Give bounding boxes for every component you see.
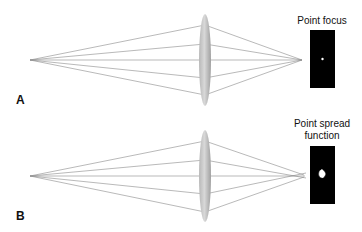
lens-a [199,14,211,106]
incoming-rays-b [30,141,205,212]
lens-b [199,130,211,222]
panel-a: Point focus A [16,14,347,107]
panel-a-letter: A [16,93,25,107]
spread-spot-b [318,169,327,179]
converging-rays-a [205,25,302,95]
panel-b-title-line2: function [304,130,339,141]
panel-a-title: Point focus [297,15,346,26]
panel-b-title-line1: Point spread [294,118,350,129]
panel-b: Point spread function B [16,118,350,223]
incoming-rays-a [30,25,205,95]
panel-b-letter: B [16,209,25,223]
focus-spot-a [321,58,323,60]
converging-rays-b [205,141,306,212]
optics-diagram: Point focus A Point spread function B [0,0,362,232]
